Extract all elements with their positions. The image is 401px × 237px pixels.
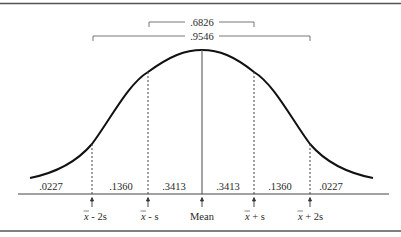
marker-arrows <box>91 198 312 208</box>
bracket-two-sd-label: .9546 <box>190 31 214 42</box>
svg-text:x - s: x - s <box>140 211 159 222</box>
sd-lines <box>92 72 310 194</box>
region-label: .1360 <box>109 181 133 192</box>
svg-text:x + 2s: x + 2s <box>297 211 323 222</box>
marker-minus-two-sd: x - 2s <box>83 211 107 222</box>
region-label: .0227 <box>39 181 63 192</box>
region-label: .3413 <box>162 181 186 192</box>
marker-minus-one-sd: x - s <box>140 211 159 222</box>
marker-mean: Mean <box>190 211 215 222</box>
svg-text:x - 2s: x - 2s <box>83 211 107 222</box>
svg-text:x + s: x + s <box>244 211 265 222</box>
normal-distribution-diagram: .6826 .9546 .0227 .1360 .3413 .3413 .136… <box>0 0 401 237</box>
region-label: .0227 <box>319 181 343 192</box>
bracket-one-sd-label: .6826 <box>190 17 214 28</box>
region-label: .1360 <box>268 181 292 192</box>
region-label: .3413 <box>216 181 240 192</box>
marker-plus-two-sd: x + 2s <box>297 211 323 222</box>
marker-plus-one-sd: x + s <box>244 211 265 222</box>
